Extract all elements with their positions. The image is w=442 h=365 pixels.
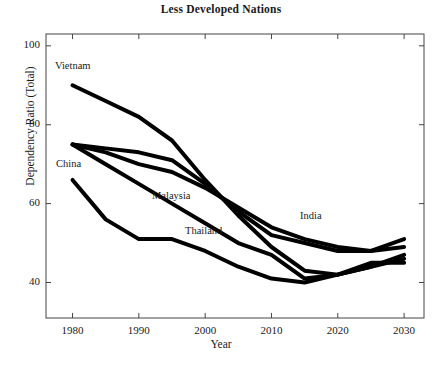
x-tick-label: 2010 [248, 324, 294, 336]
plot-frame [46, 34, 424, 318]
x-tick-label: 1980 [50, 324, 96, 336]
y-tick-label: 100 [14, 38, 40, 50]
series-label-thailand: Thailand [185, 225, 222, 236]
x-tick-label: 2000 [182, 324, 228, 336]
series-label-vietnam: Vietnam [55, 60, 91, 71]
chart-canvas: Less Developed Nations Dependency Ratio … [0, 0, 442, 365]
y-tick-label: 80 [14, 117, 40, 129]
line-plot [0, 0, 442, 365]
x-tick-label: 2030 [381, 324, 427, 336]
x-tick-label: 2020 [315, 324, 361, 336]
x-tick-label: 1990 [116, 324, 162, 336]
series-label-india: India [300, 210, 322, 221]
series-label-malaysia: Malaysia [152, 190, 191, 201]
data-lines [73, 85, 405, 282]
series-label-china: China [56, 158, 81, 169]
y-tick-label: 60 [14, 196, 40, 208]
y-tick-label: 40 [14, 275, 40, 287]
axis-ticks [46, 34, 424, 318]
